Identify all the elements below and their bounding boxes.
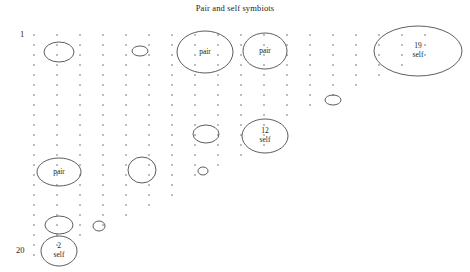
grid-dot xyxy=(217,84,218,85)
grid-dot xyxy=(56,204,57,205)
grid-dot xyxy=(217,64,218,65)
grid-dot xyxy=(102,144,103,145)
grid-dot xyxy=(148,64,149,65)
symbiot-ellipse[interactable] xyxy=(45,216,73,234)
grid-dot xyxy=(355,64,356,65)
grid-dot xyxy=(79,44,80,45)
grid-dot xyxy=(56,184,57,185)
grid-dot xyxy=(217,164,218,165)
ellipse-group xyxy=(37,26,462,266)
dot-grid xyxy=(33,34,425,255)
grid-dot xyxy=(33,224,34,225)
grid-dot xyxy=(240,74,241,75)
grid-dot xyxy=(171,54,172,55)
grid-dot xyxy=(171,64,172,65)
grid-dot xyxy=(263,84,264,85)
grid-dot xyxy=(217,134,218,135)
grid-dot xyxy=(79,224,80,225)
grid-dot xyxy=(378,34,379,35)
grid-dot xyxy=(148,94,149,95)
symbiot-ellipse-labeled[interactable] xyxy=(374,26,462,76)
grid-dot xyxy=(378,54,379,55)
symbiot-ellipse-labeled[interactable] xyxy=(37,158,81,186)
grid-dot xyxy=(33,164,34,165)
grid-dot xyxy=(56,104,57,105)
grid-dot xyxy=(102,44,103,45)
grid-dot xyxy=(171,124,172,125)
plot-area: Pair and self symbiots 1 20 pairpair19 s… xyxy=(0,0,470,272)
grid-dot xyxy=(33,34,34,35)
grid-dot xyxy=(102,114,103,115)
grid-dot xyxy=(286,84,287,85)
grid-dot xyxy=(102,204,103,205)
grid-dot xyxy=(125,174,126,175)
symbiot-ellipse[interactable] xyxy=(325,95,341,105)
symbiot-ellipse[interactable] xyxy=(193,125,219,143)
grid-dot xyxy=(56,44,57,45)
grid-dot xyxy=(56,144,57,145)
grid-dot xyxy=(217,34,218,35)
grid-dot xyxy=(217,94,218,95)
grid-dot xyxy=(102,194,103,195)
grid-dot xyxy=(102,174,103,175)
grid-dot xyxy=(33,84,34,85)
grid-dot xyxy=(33,234,34,235)
grid-dot xyxy=(79,184,80,185)
grid-dot xyxy=(240,134,241,135)
grid-dot xyxy=(378,64,379,65)
grid-dot xyxy=(79,114,80,115)
grid-dot xyxy=(263,104,264,105)
grid-dot xyxy=(56,94,57,95)
grid-dot xyxy=(56,194,57,195)
grid-dot xyxy=(125,34,126,35)
symbiot-ellipse[interactable] xyxy=(198,167,208,175)
grid-dot xyxy=(401,54,402,55)
grid-dot xyxy=(171,44,172,45)
chart-title: Pair and self symbiots xyxy=(0,3,470,13)
y-axis-tick-bottom: 20 xyxy=(16,245,25,255)
grid-dot xyxy=(125,164,126,165)
grid-dot xyxy=(33,254,34,255)
grid-dot xyxy=(171,34,172,35)
grid-dot xyxy=(171,114,172,115)
grid-dot xyxy=(286,34,287,35)
grid-dot xyxy=(240,124,241,125)
symbiot-diagram-canvas xyxy=(0,0,470,272)
grid-dot xyxy=(56,164,57,165)
grid-dot xyxy=(309,44,310,45)
grid-dot xyxy=(217,154,218,155)
grid-dot xyxy=(263,44,264,45)
symbiot-ellipse-labeled[interactable] xyxy=(41,236,77,266)
symbiot-ellipse[interactable] xyxy=(44,42,74,62)
grid-dot xyxy=(286,74,287,75)
grid-dot xyxy=(148,144,149,145)
grid-dot xyxy=(56,114,57,115)
grid-dot xyxy=(102,64,103,65)
grid-dot xyxy=(217,144,218,145)
grid-dot xyxy=(263,54,264,55)
symbiot-ellipse[interactable] xyxy=(132,46,148,56)
grid-dot xyxy=(194,144,195,145)
symbiot-ellipse-labeled[interactable] xyxy=(242,119,288,153)
grid-dot xyxy=(125,84,126,85)
grid-dot xyxy=(194,54,195,55)
symbiot-ellipse-labeled[interactable] xyxy=(177,31,233,73)
grid-dot xyxy=(102,104,103,105)
grid-dot xyxy=(33,144,34,145)
symbiot-ellipse[interactable] xyxy=(93,221,105,231)
grid-dot xyxy=(148,44,149,45)
grid-dot xyxy=(125,64,126,65)
grid-dot xyxy=(125,74,126,75)
symbiot-ellipse[interactable] xyxy=(128,157,156,183)
grid-dot xyxy=(171,154,172,155)
grid-dot xyxy=(79,214,80,215)
symbiot-ellipse-labeled[interactable] xyxy=(243,33,287,69)
grid-dot xyxy=(102,94,103,95)
grid-dot xyxy=(378,44,379,45)
grid-dot xyxy=(309,54,310,55)
grid-dot xyxy=(56,74,57,75)
grid-dot xyxy=(56,214,57,215)
grid-dot xyxy=(148,114,149,115)
grid-dot xyxy=(171,94,172,95)
grid-dot xyxy=(33,104,34,105)
